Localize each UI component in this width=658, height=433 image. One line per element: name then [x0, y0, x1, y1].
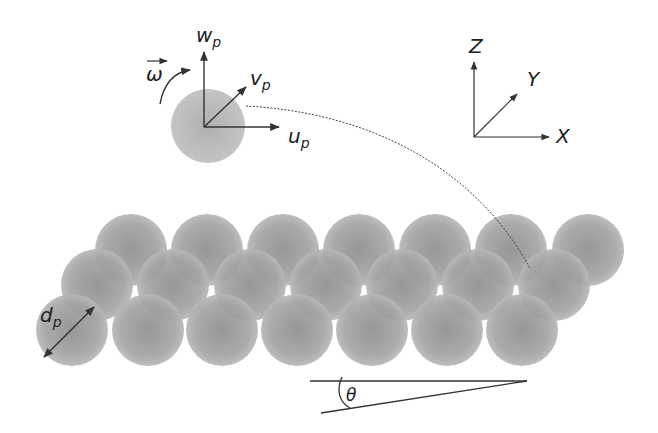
incident-particle: wp vp up ω — [146, 23, 310, 163]
sphere-front — [261, 294, 333, 366]
sphere-front — [112, 294, 184, 366]
label-w: wp — [196, 23, 221, 50]
sphere-front — [336, 294, 408, 366]
incline-angle: θ — [310, 377, 527, 413]
label-theta: θ — [346, 385, 357, 405]
sphere-front — [411, 294, 483, 366]
y-axis-arrow — [474, 94, 517, 137]
particle-bed-diagram: wp vp up ω Z Y X dp θ — [0, 0, 658, 433]
sphere-front — [486, 294, 558, 366]
label-y: Y — [527, 67, 541, 91]
sphere-bed — [36, 214, 624, 366]
label-u: up — [288, 124, 310, 151]
label-x: X — [555, 124, 571, 148]
label-v: vp — [250, 66, 271, 93]
global-axes: Z Y X — [468, 34, 571, 148]
label-omega: ω — [146, 62, 163, 86]
label-z: Z — [468, 34, 484, 58]
sphere-front — [186, 294, 258, 366]
